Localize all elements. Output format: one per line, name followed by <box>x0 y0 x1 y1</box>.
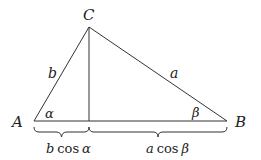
vertex-c-label: C <box>83 6 95 24</box>
brace-left <box>34 127 89 137</box>
side-b-label: b <box>48 65 57 81</box>
side-a <box>89 27 227 121</box>
side-a-label: a <box>170 65 178 81</box>
vertex-b-label: B <box>234 113 246 131</box>
angle-alpha-label: α <box>45 106 54 121</box>
brace-right <box>89 127 227 137</box>
segment-left-label: bcosα <box>46 141 91 156</box>
side-b <box>34 27 89 121</box>
segment-right-label: acosβ <box>146 141 189 156</box>
vertex-a-label: A <box>10 113 23 131</box>
angle-beta-label: β <box>191 105 200 120</box>
triangle-diagram: C A B b a α β bcosα acosβ <box>0 0 261 160</box>
